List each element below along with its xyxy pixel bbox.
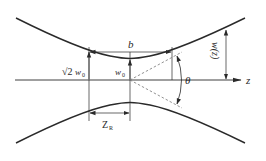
svg-text:√2: √2 bbox=[62, 66, 73, 77]
asymptote-lower bbox=[130, 80, 182, 108]
svg-text:R: R bbox=[109, 125, 113, 131]
svg-text:0: 0 bbox=[82, 72, 85, 78]
svg-text:Z: Z bbox=[102, 119, 108, 130]
sqrt2-waist-label: √2 w 0 bbox=[62, 66, 85, 78]
rayleigh-range-label: Z R bbox=[102, 119, 113, 131]
divergence-angle-label: θ bbox=[185, 74, 191, 86]
beam-radius-label: w(z) bbox=[209, 42, 221, 60]
svg-text:w: w bbox=[115, 67, 121, 77]
z-axis-label: z bbox=[245, 74, 251, 86]
asymptote-upper bbox=[130, 52, 182, 80]
beam-envelope-lower bbox=[16, 103, 245, 144]
gaussian-beam-diagram: z b √2 w 0 w 0 w(z) bbox=[0, 0, 266, 161]
svg-text:w: w bbox=[75, 67, 81, 77]
svg-text:0: 0 bbox=[122, 72, 125, 78]
confocal-parameter-label: b bbox=[128, 38, 134, 50]
waist-radius-label: w 0 bbox=[115, 67, 125, 78]
